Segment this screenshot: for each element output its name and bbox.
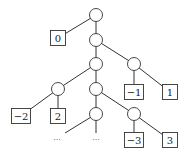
tree-node-n5 bbox=[90, 83, 103, 96]
leaf-box-L1: 1 bbox=[163, 85, 178, 100]
ellipsis-D2: ··· bbox=[92, 135, 100, 144]
tree-node-n0 bbox=[90, 9, 103, 22]
leaf-box-Lm3: −3 bbox=[125, 133, 144, 148]
ellipsis-D1: ··· bbox=[53, 135, 61, 144]
leaf-label: 0 bbox=[55, 33, 61, 44]
tree-node-n4 bbox=[52, 83, 65, 96]
leaf-box-L0: 0 bbox=[51, 31, 66, 46]
leaf-label: 1 bbox=[167, 87, 173, 98]
leaf-label: −1 bbox=[127, 87, 142, 98]
leaf-label: 2 bbox=[55, 111, 61, 122]
leaf-box-L2: 2 bbox=[51, 109, 66, 124]
tree-node-n7 bbox=[128, 108, 141, 121]
leaf-label: −2 bbox=[14, 111, 29, 122]
tree-node-n1 bbox=[90, 34, 103, 47]
tree-node-n6 bbox=[90, 108, 103, 121]
leaf-box-Lm2: −2 bbox=[12, 109, 31, 124]
tree-diagram: 0−11−22−33······ bbox=[0, 0, 187, 155]
tree-node-n2 bbox=[90, 58, 103, 71]
leaf-box-Lm1: −1 bbox=[125, 85, 144, 100]
leaf-label: −3 bbox=[127, 135, 142, 146]
leaf-label: 3 bbox=[167, 135, 173, 146]
leaf-box-L3: 3 bbox=[163, 133, 178, 148]
tree-node-n3 bbox=[128, 58, 141, 71]
